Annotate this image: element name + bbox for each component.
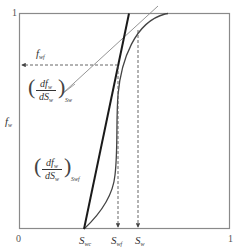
x-max-label: 1 (228, 234, 233, 244)
eval-subscript: Sw (65, 97, 72, 103)
x-label-sw-sub: w (141, 241, 145, 247)
y-axis-label: fw (5, 116, 12, 128)
numerator: dfw (35, 79, 57, 90)
fractional-flow-diagram (0, 0, 236, 252)
right-paren: ) (64, 155, 71, 177)
y-axis-label-sub: w (8, 122, 12, 128)
numerator: dfw (41, 158, 63, 169)
x-label-sw: Sw (135, 235, 145, 247)
tangent-line-swf (84, 14, 129, 230)
x-label-swc: Swc (79, 235, 91, 247)
derivative-label-swf: ( dfw dSw ) Swf (34, 157, 84, 183)
fwf-label: fwf (36, 48, 45, 60)
fractional-flow-curve (84, 14, 168, 230)
denominator: dSw (41, 171, 63, 182)
denominator: dSw (35, 92, 57, 103)
x-label-swf-sub: wf (117, 241, 123, 247)
derivative-label-sw: ( dfw dSw ) Sw (28, 78, 78, 104)
plot-frame (20, 14, 230, 229)
origin-label: 0 (16, 234, 21, 244)
x-label-swc-sub: wc (85, 241, 92, 247)
right-paren: ) (58, 76, 65, 98)
fwf-label-sub: wf (39, 54, 45, 60)
x-label-swf: Swf (111, 235, 122, 247)
eval-subscript: Swf (71, 176, 80, 182)
y-max-label: 1 (12, 8, 17, 18)
